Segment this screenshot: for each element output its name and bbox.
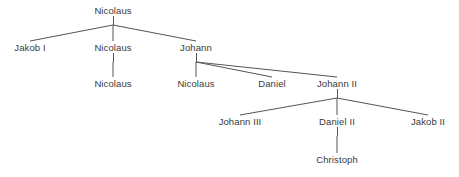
tree-node-nicolaus-root: Nicolaus bbox=[94, 6, 131, 16]
edge-johann-ii-to-johann-iii bbox=[240, 98, 337, 115]
tree-node-nicolaus-g2: Nicolaus bbox=[94, 43, 131, 53]
edge-nicolaus-root-to-jakob-i bbox=[30, 25, 113, 41]
edge-johann-to-johann-ii bbox=[196, 62, 337, 77]
tree-node-jakob-ii: Jakob II bbox=[411, 117, 445, 127]
tree-node-johann-ii: Johann II bbox=[317, 79, 357, 89]
tree-node-jakob-i: Jakob I bbox=[14, 43, 45, 53]
tree-node-daniel-ii: Daniel II bbox=[319, 117, 355, 127]
edge-nicolaus-root-to-johann bbox=[113, 25, 196, 41]
tree-node-nicolaus-g3a: Nicolaus bbox=[94, 79, 131, 89]
edge-layer bbox=[0, 0, 459, 177]
tree-node-nicolaus-g3b: Nicolaus bbox=[177, 79, 214, 89]
tree-node-johann-iii: Johann III bbox=[219, 117, 262, 127]
edge-johann-to-daniel bbox=[196, 62, 272, 77]
family-tree-diagram: NicolausJakob INicolausJohannNicolausNic… bbox=[0, 0, 459, 177]
edge-johann-ii-to-jakob-ii bbox=[337, 98, 428, 115]
tree-node-daniel: Daniel bbox=[258, 79, 286, 89]
tree-node-johann: Johann bbox=[180, 43, 212, 53]
tree-node-christoph: Christoph bbox=[316, 155, 358, 165]
